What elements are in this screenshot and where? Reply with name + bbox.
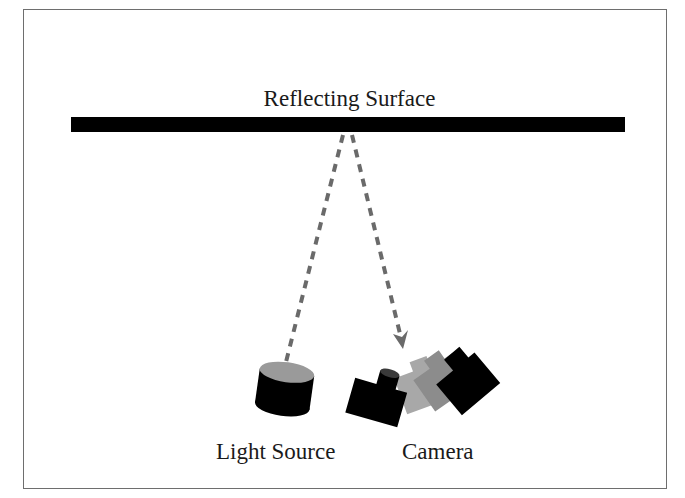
reflected-ray-dashed-line (352, 135, 401, 338)
arrowhead-icon (393, 330, 408, 349)
reflecting-surface-label: Reflecting Surface (0, 87, 685, 110)
reflection-diagram (0, 0, 685, 498)
reflecting-surface-bar (71, 117, 625, 132)
incident-ray-dashed-line (286, 135, 343, 362)
light-source-label: Light Source (216, 440, 335, 463)
camera-icon (345, 342, 500, 428)
camera-label: Camera (402, 440, 474, 463)
light-source-cylinder-icon (254, 359, 316, 420)
